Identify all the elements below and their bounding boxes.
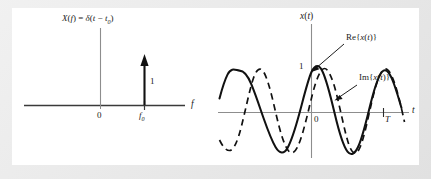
impulse-amplitude-label: 1 xyxy=(150,77,155,86)
re-annotation-label: Re{x(t)} xyxy=(346,33,377,42)
equation-arg-paren-close: ) xyxy=(110,13,113,23)
impulse-arrow-head xyxy=(140,54,148,66)
right-panel-amplitude-label: 1 xyxy=(299,62,304,71)
im-brace-close: } xyxy=(386,72,390,82)
equation-arg-var: t xyxy=(93,13,96,23)
im-annotation-label: Im{x(t)} xyxy=(359,73,390,82)
equation-paren-close: ) xyxy=(73,13,76,23)
re-prefix: Re xyxy=(346,32,356,42)
left-panel-tick-label-origin: 0 xyxy=(97,111,102,120)
figure-vector-layer xyxy=(0,0,431,179)
left-panel-tick-label-f0: f0 xyxy=(139,111,145,122)
left-panel-equation: X(f) = δ(t − t0) xyxy=(62,14,113,25)
left-panel-x-axis-label: f xyxy=(191,100,194,110)
re-func: x xyxy=(360,32,364,42)
tick-f0-subscript: 0 xyxy=(142,116,145,122)
im-func: x xyxy=(373,72,377,82)
right-panel-tick-label-origin: 0 xyxy=(314,115,319,124)
right-panel-y-axis-label: x(t) xyxy=(300,12,313,22)
right-panel-x-axis-label: t xyxy=(412,106,415,116)
y-axis-func: x xyxy=(300,11,304,21)
equation-equals: = xyxy=(78,13,83,23)
right-panel-tick-label-T: T xyxy=(385,115,390,124)
im-prefix: Im xyxy=(359,72,369,82)
figure-root: X(f) = δ(t − t0) f 0 f0 1 x(t) 1 0 T t R… xyxy=(0,0,431,179)
re-arg: t xyxy=(367,32,370,42)
left-panel-graphics xyxy=(24,28,185,110)
im-annotation-leader xyxy=(338,85,357,98)
re-annotation-leader xyxy=(315,44,344,69)
equation-minus: − xyxy=(98,13,103,23)
y-axis-arg: t xyxy=(307,11,310,21)
right-panel-graphics xyxy=(218,24,409,158)
im-arg: t xyxy=(380,72,383,82)
re-brace-close: } xyxy=(373,32,377,42)
